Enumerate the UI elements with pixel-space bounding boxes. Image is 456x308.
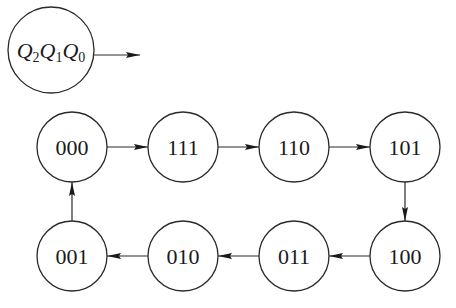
legend-state-node: Q2Q1Q0: [8, 7, 94, 93]
state-node-101: 101: [370, 112, 440, 182]
state-label: 101: [389, 135, 422, 160]
state-node-001: 001: [37, 221, 107, 291]
state-label: 010: [167, 244, 200, 269]
state-label: 001: [56, 244, 89, 269]
legend-variables-label: Q2Q1Q0: [17, 38, 86, 65]
state-node-110: 110: [259, 112, 329, 182]
state-label: 111: [167, 135, 198, 160]
state-node-000: 000: [37, 112, 107, 182]
state-diagram: Q2Q1Q0 000 111 110 101 100 011 010 001: [0, 0, 456, 308]
state-node-100: 100: [370, 221, 440, 291]
state-node-010: 010: [148, 221, 218, 291]
state-label: 110: [278, 135, 310, 160]
state-node-111: 111: [148, 112, 218, 182]
state-label: 011: [278, 244, 310, 269]
state-label: 000: [56, 135, 89, 160]
state-node-011: 011: [259, 221, 329, 291]
state-label: 100: [389, 244, 422, 269]
